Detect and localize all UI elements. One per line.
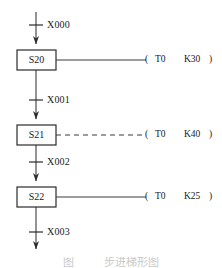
- transition-label-x002: X002: [47, 157, 70, 167]
- output-coil-open-paren-3: (: [145, 192, 148, 202]
- output-coil-open-paren-2: (: [145, 130, 148, 140]
- output-rungs: [56, 60, 146, 197]
- output-coil-device-2: T0: [155, 130, 166, 140]
- transition-label-x000: X000: [47, 20, 70, 30]
- state-label-s21: S21: [17, 130, 56, 140]
- output-coil-open-paren-1: (: [145, 55, 148, 65]
- output-coil-device-3: T0: [155, 192, 166, 202]
- output-coil-preset-3: K25: [184, 192, 200, 202]
- state-label-s20: S20: [17, 55, 56, 65]
- transition-label-x003: X003: [47, 227, 70, 237]
- output-coil-close-paren-3: ): [209, 192, 212, 202]
- output-coil-close-paren-2: ): [209, 130, 212, 140]
- output-coil-preset-2: K40: [184, 130, 200, 140]
- figure-caption: 图 步进梯形图: [0, 257, 222, 268]
- output-coil-preset-1: K30: [184, 55, 200, 65]
- output-coil-device-1: T0: [155, 55, 166, 65]
- transition-label-x001: X001: [47, 95, 70, 105]
- state-label-s22: S22: [17, 192, 56, 202]
- output-coil-close-paren-1: ): [209, 55, 212, 65]
